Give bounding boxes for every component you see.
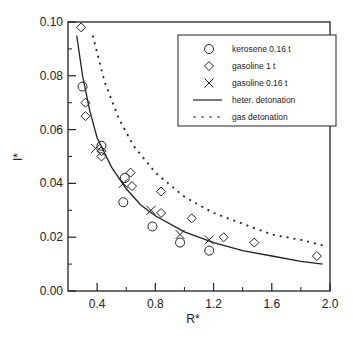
y-tick-label: 0.08: [40, 69, 64, 83]
legend-label: gas detonation: [232, 112, 288, 122]
legend-label: heter. detonation: [232, 95, 296, 105]
x-axis-label: R*: [186, 312, 200, 326]
x-axis: 0.40.81.21.62.0: [89, 283, 339, 311]
y-tick-label: 0.02: [40, 230, 64, 244]
y-tick-label: 0.04: [40, 176, 64, 190]
diamond-marker: [77, 23, 86, 32]
x-tick-label: 0.4: [89, 297, 106, 311]
y-tick-label: 0.10: [40, 15, 64, 29]
legend: kerosene 0.16 tgasoline 1 tgasoline 0.16…: [178, 35, 336, 126]
diamond-marker: [250, 238, 259, 247]
circle-marker: [119, 198, 128, 207]
x-tick-label: 0.8: [147, 297, 164, 311]
diamond-marker: [157, 187, 166, 196]
y-tick-label: 0.06: [40, 123, 64, 137]
diamond-marker: [312, 252, 321, 261]
legend-label: gasoline 1 t: [232, 61, 276, 71]
diamond-marker: [126, 168, 135, 177]
y-tick-label: 0.00: [40, 284, 64, 298]
circle-marker: [176, 238, 185, 247]
chart: 0.40.81.21.62.0 0.000.020.040.060.080.10…: [0, 0, 353, 338]
legend-label: kerosene 0.16 t: [232, 44, 291, 54]
x-tick-label: 2.0: [322, 297, 339, 311]
circle-marker: [148, 222, 157, 231]
diamond-marker: [219, 233, 228, 242]
diamond-marker: [81, 112, 90, 121]
diamond-marker: [157, 208, 166, 217]
x-tick-label: 1.6: [263, 297, 280, 311]
y-axis: 0.000.020.040.060.080.10: [40, 15, 76, 298]
y-axis-label: I*: [11, 153, 25, 161]
diamond-marker: [128, 182, 137, 191]
diamond-marker: [187, 214, 196, 223]
legend-label: gasoline 0.16 t: [232, 78, 288, 88]
x-tick-label: 1.2: [205, 297, 222, 311]
circle-marker: [205, 246, 214, 255]
